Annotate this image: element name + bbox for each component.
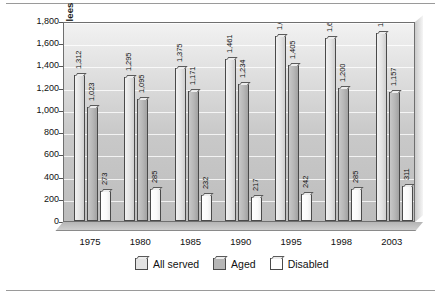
x-tick-label-2003: 2003 [370, 236, 414, 247]
bar-value-label: 273 [100, 172, 109, 184]
x-axis-tick-labels: 1975198019851990199519982003 [63, 236, 423, 250]
legend-swatch-all-served [135, 258, 148, 270]
bar-group-1975: 1,3121,023273 [74, 23, 114, 221]
bar-value-label: 1,461 [225, 34, 234, 52]
bar-value-label: 1,312 [74, 51, 83, 69]
bar-top-face [88, 105, 100, 108]
figure-bottom-rule [6, 290, 435, 291]
bar-value-label: 1,691 [376, 22, 385, 27]
bar-value-label: 1,023 [87, 83, 96, 101]
legend-label: All served [153, 258, 199, 270]
bar-top-face [390, 90, 402, 93]
bar-all-served-2003[interactable] [376, 33, 387, 221]
bar-top-face [352, 187, 364, 190]
x-tick-label-1980: 1980 [118, 236, 162, 247]
bar-top-face [302, 192, 314, 195]
plot-floor [55, 222, 423, 231]
bar-value-label: 1,171 [188, 67, 197, 85]
y-tick-label: 200 [23, 195, 59, 204]
bar-group-1985: 1,3751,171232 [175, 23, 215, 221]
bar-value-label: 285 [351, 171, 360, 183]
bar-top-face [125, 75, 137, 78]
legend-item-disabled[interactable]: Disabled [270, 258, 329, 270]
y-tick-label: 1,800 [23, 17, 59, 26]
bar-all-served-1985[interactable] [175, 68, 186, 221]
y-tick-label: 400 [23, 173, 59, 182]
bar-disabled-1990[interactable] [251, 197, 262, 221]
bar-aged-1990[interactable] [238, 84, 249, 221]
bar-disabled-1975[interactable] [100, 191, 111, 221]
bar-aged-1980[interactable] [137, 99, 148, 221]
y-tick-label: 0 [23, 217, 59, 226]
bar-disabled-1985[interactable] [201, 195, 212, 221]
bar-top-face [326, 36, 338, 39]
bar-top-face [151, 187, 163, 190]
bar-value-label: 311 [402, 169, 411, 181]
bar-top-face [276, 34, 288, 37]
legend-swatch-top-face [136, 256, 150, 259]
bar-group-2003: 1,6911,157311 [376, 23, 415, 221]
bar-value-label: 242 [301, 176, 310, 188]
bar-all-served-1980[interactable] [124, 77, 135, 221]
bar-top-face [252, 195, 264, 198]
bar-disabled-1995[interactable] [301, 194, 312, 221]
y-tick-label: 1,000 [23, 106, 59, 115]
bar-aged-1998[interactable] [338, 88, 349, 221]
bar-value-label: 1,405 [288, 41, 297, 59]
bar-value-label: 1,375 [175, 44, 184, 62]
bar-top-face [75, 73, 87, 76]
bar-top-face [138, 97, 150, 100]
chart-figure: Thousands of Enrollees 02004006008001,00… [0, 0, 441, 294]
bar-value-label: 232 [201, 177, 210, 189]
legend-swatch-top-face [271, 256, 285, 259]
bar-all-served-1990[interactable] [225, 59, 236, 221]
bar-top-face [403, 184, 415, 187]
x-tick-label-1975: 1975 [68, 236, 112, 247]
bar-group-1995: 1,6671,405242 [275, 23, 315, 221]
x-tick-label-1985: 1985 [169, 236, 213, 247]
x-tick-label-1995: 1995 [269, 236, 313, 247]
y-tick-label: 600 [23, 150, 59, 159]
legend-item-aged[interactable]: Aged [213, 258, 256, 270]
bar-aged-2003[interactable] [389, 92, 400, 221]
bar-disabled-1998[interactable] [351, 189, 362, 221]
legend-item-all-served[interactable]: All served [135, 258, 199, 270]
bar-value-label: 1,295 [124, 53, 133, 71]
x-tick-label-1998: 1998 [319, 236, 363, 247]
bar-top-face [202, 193, 214, 196]
bar-top-face [101, 189, 113, 192]
chart-legend: All servedAgedDisabled [135, 258, 329, 270]
bar-aged-1975[interactable] [87, 107, 98, 221]
bar-disabled-2003[interactable] [402, 186, 413, 221]
bar-top-face [176, 66, 188, 69]
bar-top-face [339, 86, 351, 89]
legend-swatch-aged [213, 258, 226, 270]
bar-top-face [377, 31, 389, 34]
bar-top-face [189, 89, 201, 92]
bar-value-label: 285 [150, 171, 159, 183]
bar-group-1998: 1,6461,200285 [325, 23, 365, 221]
y-tick-label: 800 [23, 128, 59, 137]
bar-all-served-1995[interactable] [275, 36, 286, 221]
bar-top-face [289, 63, 301, 66]
y-tick-label: 1,400 [23, 61, 59, 70]
bar-value-label: 1,095 [137, 75, 146, 93]
bar-aged-1985[interactable] [188, 91, 199, 221]
bar-value-label: 1,157 [389, 68, 398, 86]
legend-swatch-top-face [214, 256, 228, 259]
bar-aged-1995[interactable] [288, 65, 299, 221]
y-tick-label: 1,200 [23, 84, 59, 93]
legend-label: Disabled [288, 258, 329, 270]
bar-group-1980: 1,2951,095285 [124, 23, 164, 221]
bar-value-label: 1,646 [325, 22, 334, 32]
y-tick-label: 1,600 [23, 39, 59, 48]
bar-all-served-1998[interactable] [325, 38, 336, 221]
legend-label: Aged [231, 258, 256, 270]
bar-group-1990: 1,4611,234217 [225, 23, 265, 221]
plot-right-wall [415, 15, 423, 222]
x-tick-label-1990: 1990 [219, 236, 263, 247]
bar-all-served-1975[interactable] [74, 75, 85, 221]
bar-value-label: 217 [251, 179, 260, 191]
bar-disabled-1980[interactable] [150, 189, 161, 221]
bar-top-face [239, 82, 251, 85]
